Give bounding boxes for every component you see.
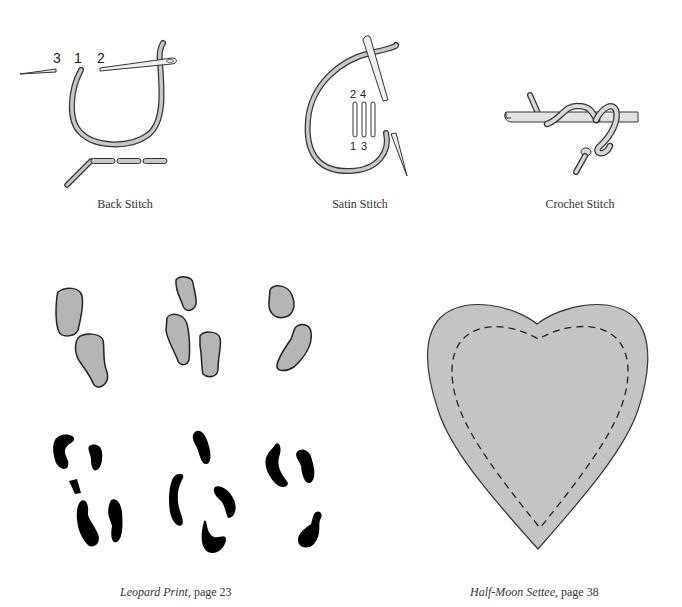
caption-title: Half-Moon Settee [470, 585, 555, 599]
spot [77, 500, 99, 546]
spot [296, 450, 314, 483]
back-stitch-diagram: 3 1 2 [20, 43, 177, 185]
spot [176, 277, 196, 310]
label-3: 3 [53, 50, 61, 66]
caption-satin-stitch: Satin Stitch [305, 197, 415, 212]
spot [88, 444, 102, 470]
spot [269, 286, 294, 318]
label-1: 1 [350, 140, 356, 152]
spot [193, 431, 211, 464]
crochet-stitch-diagram [505, 95, 638, 172]
caption-page: , page 38 [555, 585, 599, 599]
spot [202, 521, 226, 554]
spot [277, 325, 311, 371]
satin-bar-2 [362, 102, 366, 137]
spot [169, 474, 183, 526]
needle-bottom [391, 133, 407, 176]
spot [108, 499, 122, 542]
thread-loop [72, 43, 163, 144]
leopard-gray-spots [56, 277, 311, 387]
spot [265, 443, 287, 487]
satin-stitch-diagram: 2 4 1 3 [308, 36, 407, 176]
label-3: 3 [361, 140, 367, 152]
caption-back-stitch: Back Stitch [70, 197, 180, 212]
caption-page: , page 23 [188, 585, 232, 599]
caption-crochet-stitch: Crochet Stitch [520, 197, 640, 212]
needle-tip-left [20, 69, 56, 74]
stitch-line [67, 159, 167, 186]
spot [298, 511, 322, 547]
label-1: 1 [74, 50, 82, 66]
satin-bar-1 [353, 102, 357, 137]
spot [56, 288, 82, 336]
needle-top [363, 36, 388, 101]
spot [69, 479, 81, 494]
caption-half-moon-settee: Half-Moon Settee, page 38 [470, 585, 599, 600]
caption-leopard-print: Leopard Print, page 23 [120, 585, 232, 600]
heart-shape [428, 305, 648, 549]
heart-diagram [428, 305, 648, 549]
caption-title: Leopard Print [120, 585, 188, 599]
spot [76, 334, 108, 387]
label-4: 4 [360, 88, 366, 100]
label-2: 2 [97, 50, 105, 66]
label-2: 2 [350, 88, 356, 100]
satin-bar-3 [371, 102, 375, 137]
spot [214, 486, 236, 518]
spot [53, 435, 74, 469]
spot [166, 314, 190, 364]
leopard-black-spots [53, 431, 322, 553]
needle-right [100, 58, 177, 71]
spot [200, 332, 221, 377]
